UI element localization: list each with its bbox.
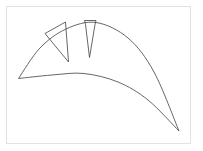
- right-wedge: [85, 21, 97, 58]
- left-wedge: [45, 22, 69, 62]
- outer-arc: [19, 22, 180, 131]
- line-drawing-canvas: [0, 0, 203, 151]
- shape-layer: [19, 21, 180, 132]
- inner-curve: [19, 73, 180, 131]
- figure-root: [0, 0, 203, 151]
